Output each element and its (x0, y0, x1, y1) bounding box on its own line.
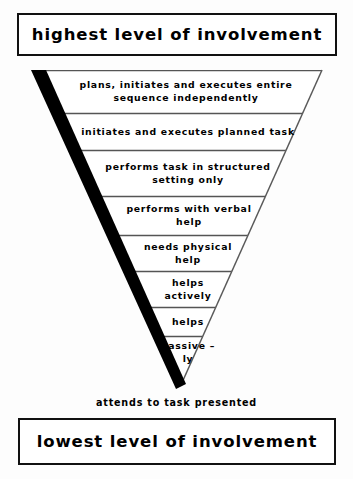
tier-row[interactable]: initiates and executes planned task (72, 115, 304, 149)
tier-row[interactable]: needs physical help (112, 237, 264, 270)
tier-label: performs task in structured setting only (105, 161, 270, 187)
tier-label: initiates and executes planned task (81, 126, 295, 139)
tier-row[interactable]: performs with verbal help (100, 198, 278, 234)
lowest-involvement-banner: lowest level of involvement (18, 418, 336, 465)
tier-row[interactable]: performs task in structured setting only (84, 152, 292, 195)
tier-row[interactable]: helps actively (124, 273, 252, 306)
tier-row[interactable]: passive – ly (140, 338, 236, 368)
lowest-involvement-banner-text: lowest level of involvement (37, 432, 318, 451)
tier-label: needs physical help (144, 241, 232, 267)
tier-label: performs with verbal help (126, 203, 251, 229)
tier-label: passive – ly (161, 340, 215, 366)
tier-row[interactable]: plans, initiates and executes entire seq… (58, 72, 314, 112)
apex-caption: attends to task presented (0, 391, 353, 410)
tier-label: plans, initiates and executes entire seq… (80, 79, 293, 105)
apex-caption-text: attends to task presented (96, 397, 257, 408)
tier-label: helps (172, 316, 204, 329)
tier-label: helps actively (164, 277, 211, 303)
tier-row[interactable]: helps (138, 309, 238, 335)
